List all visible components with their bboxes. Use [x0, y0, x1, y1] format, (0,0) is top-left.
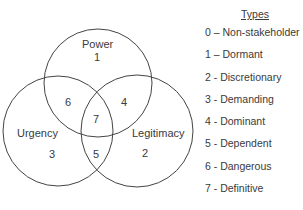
urgency-label: Urgency [17, 127, 58, 139]
legitimacy-label: Legitimacy [132, 127, 185, 139]
types-legend: Types 0 – Non-stakeholder 1 – Dormant 2 … [205, 8, 300, 204]
power-legitimacy-number: 4 [121, 96, 127, 108]
power-urgency-number: 6 [65, 96, 71, 108]
legend-item: 5 - Dependent [205, 137, 300, 159]
legend-item: 7 - Definitive [205, 182, 300, 204]
power-label: Power [82, 38, 113, 50]
legend-item: 6 - Dangerous [205, 160, 300, 182]
legend-item: 2 - Discretionary [205, 71, 300, 93]
legend-item: 0 – Non-stakeholder [205, 26, 300, 48]
legend-item: 1 – Dormant [205, 48, 300, 70]
legend-item: 4 - Dominant [205, 115, 300, 137]
power-number: 1 [94, 51, 100, 63]
venn-diagram [0, 0, 200, 210]
all-three-number: 7 [93, 113, 99, 125]
legend-title: Types [241, 8, 300, 20]
urgency-number: 3 [49, 148, 55, 160]
legend-item: 3 - Demanding [205, 93, 300, 115]
legitimacy-number: 2 [142, 147, 148, 159]
urgency-legitimacy-number: 5 [93, 148, 99, 160]
